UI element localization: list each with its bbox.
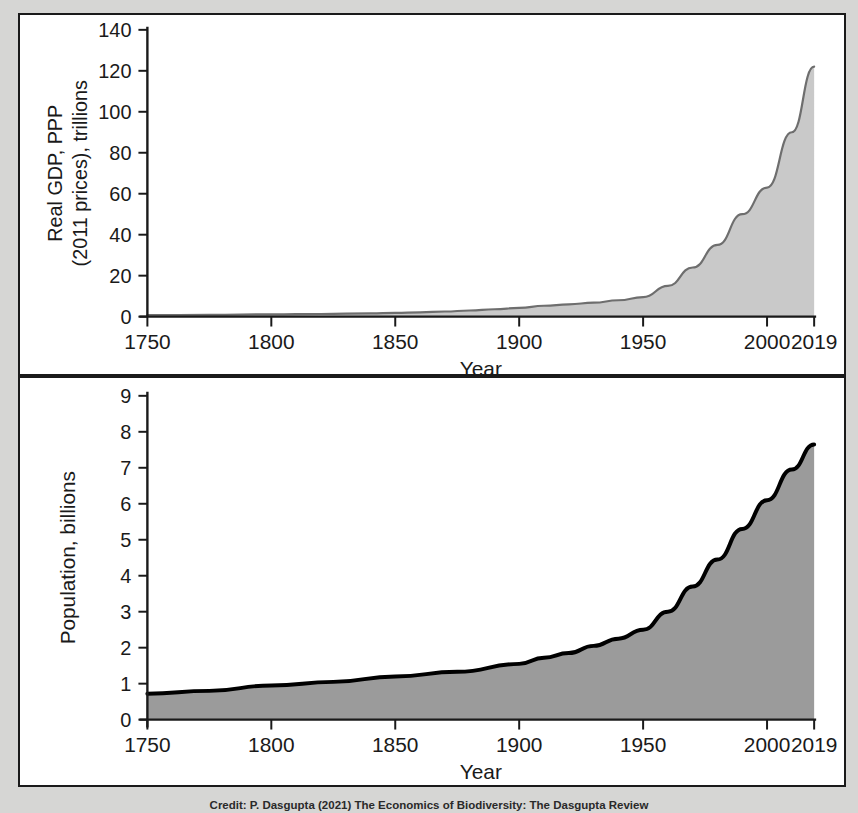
gdp-x-tick-label: 1950: [620, 330, 666, 353]
gdp-x-tick-label: 1750: [124, 330, 170, 353]
population-y-tick-label: 0: [120, 709, 131, 731]
gdp-x-axis-title: Year: [460, 357, 502, 374]
population-x-tick-label: 1800: [248, 733, 294, 756]
gdp-y-tick-label: 60: [109, 183, 131, 205]
population-x-tick-label: 1850: [372, 733, 418, 756]
population-x-tick-label: 1950: [620, 733, 666, 756]
gdp-y-axis-title-line2: (2011 prices), trillions: [69, 80, 91, 266]
population-y-tick-label: 9: [120, 385, 131, 407]
chart-panel-gdp: 0204060801001201401750180018501900195020…: [18, 13, 846, 376]
gdp-area-fill: [147, 67, 814, 317]
chart-panel-population: 01234567891750180018501900195020002019Ye…: [18, 376, 846, 787]
gdp-y-tick-label: 80: [109, 142, 131, 164]
population-x-tick-label: 2000: [744, 733, 790, 756]
gdp-y-tick-label: 20: [109, 265, 131, 287]
gdp-x-tick-label: 2019: [791, 330, 837, 353]
population-y-tick-label: 2: [120, 637, 131, 659]
gdp-x-tick-label: 1900: [496, 330, 542, 353]
population-area-fill: [147, 444, 814, 719]
gdp-plot: 0204060801001201401750180018501900195020…: [20, 15, 844, 374]
gdp-x-tick-label: 2000: [744, 330, 790, 353]
figure-container: 0204060801001201401750180018501900195020…: [0, 0, 858, 813]
gdp-y-tick-label: 100: [98, 101, 131, 123]
gdp-y-tick-label: 40: [109, 224, 131, 246]
population-y-tick-label: 5: [120, 529, 131, 551]
population-x-tick-label: 1750: [124, 733, 170, 756]
gdp-x-tick-label: 1800: [248, 330, 294, 353]
gdp-y-tick-label: 140: [98, 19, 131, 41]
population-x-tick-label: 1900: [496, 733, 542, 756]
population-y-tick-label: 4: [120, 565, 131, 587]
gdp-x-tick-label: 1850: [372, 330, 418, 353]
gdp-y-axis-title-line1: Real GDP, PPP: [44, 105, 66, 242]
population-x-axis-title: Year: [460, 760, 502, 783]
population-plot: 01234567891750180018501900195020002019Ye…: [20, 378, 844, 785]
gdp-y-tick-label: 0: [120, 306, 131, 328]
population-y-tick-label: 6: [120, 493, 131, 515]
population-y-tick-label: 8: [120, 421, 131, 443]
population-y-tick-label: 1: [120, 673, 131, 695]
figure-caption: Credit: P. Dasgupta (2021) The Economics…: [0, 798, 858, 813]
population-x-tick-label: 2019: [791, 733, 837, 756]
population-y-tick-label: 7: [120, 457, 131, 479]
population-y-axis-title: Population, billions: [56, 471, 79, 644]
gdp-y-tick-label: 120: [98, 60, 131, 82]
population-y-tick-label: 3: [120, 601, 131, 623]
